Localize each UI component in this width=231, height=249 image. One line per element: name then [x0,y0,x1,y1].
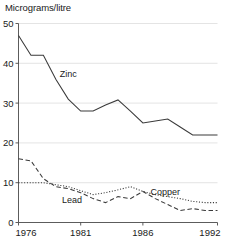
series-line-copper [19,183,218,203]
series-label-copper: Copper [150,187,180,197]
gridlines-group [19,24,218,183]
series-label-zinc: Zinc [60,69,78,79]
tick-labels-group: 010203040501976198119861992 [3,18,221,238]
series-lines-group [19,35,218,210]
x-tick-label: 1981 [70,227,91,238]
x-tick-label: 1986 [132,227,153,238]
y-tick-label: 40 [3,58,14,69]
series-line-zinc [19,35,218,135]
y-tick-label: 0 [8,217,13,228]
series-label-lead: Lead [62,195,82,205]
axes-group [16,24,218,226]
series-labels-group: ZincLeadCopper [60,69,180,204]
y-tick-label: 10 [3,177,14,188]
x-tick-label: 1992 [199,227,220,238]
y-tick-label: 30 [3,98,14,109]
chart-plot-area: 010203040501976198119861992 ZincLeadCopp… [0,0,231,249]
x-tick-label: 1976 [16,227,37,238]
chart-container: Micrograms/litre 01020304050197619811986… [0,0,231,249]
y-tick-label: 20 [3,137,14,148]
y-tick-label: 50 [3,18,14,29]
series-line-lead [19,159,218,211]
